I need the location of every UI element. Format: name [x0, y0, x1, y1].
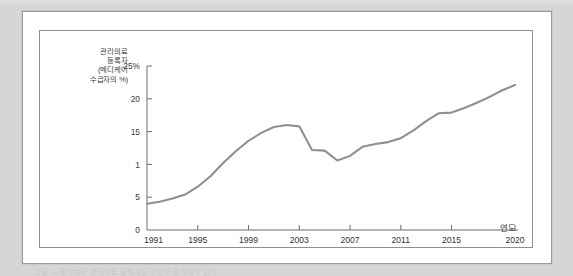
y-tick-label: 20 [131, 94, 141, 104]
y-tick-label: 5 [135, 192, 140, 202]
x-tick-label: 1995 [188, 235, 207, 245]
x-tick-label: 2020 [505, 235, 524, 245]
x-tick-label: 2003 [290, 235, 309, 245]
x-tick-label: 2007 [340, 235, 359, 245]
figure-plate: 관리의료 등록자 (메디케어 수급자의 %) 051152025% 199119… [39, 30, 533, 248]
y-tick-label: 1 [135, 160, 140, 170]
x-axis-title: 연도 [500, 221, 516, 233]
y-tick-label: 15 [131, 127, 141, 137]
figure-frame: 관리의료 등록자 (메디케어 수급자의 %) 051152025% 199119… [22, 11, 552, 264]
scan-caption: 그림 — 메디케어 관리의료 등록자는 꾸준히 증가하고 있다 [34, 267, 534, 276]
x-axis-ticks: 19911995199920032007201120152020 [144, 225, 525, 245]
y-tick-label: 25% [123, 61, 140, 71]
y-tick-label: 0 [135, 225, 140, 235]
x-tick-label: 2011 [392, 235, 411, 245]
x-tick-label: 2015 [442, 235, 461, 245]
data-series-line [147, 85, 515, 204]
x-tick-label: 1991 [144, 235, 163, 245]
x-tick-label: 1999 [239, 235, 258, 245]
line-chart: 051152025% 19911995199920032007201120152… [40, 31, 532, 247]
y-axis-ticks: 051152025% [123, 61, 152, 235]
screenshot-page: 관리의료 등록자 (메디케어 수급자의 %) 051152025% 199119… [0, 0, 573, 276]
chart-svg: 051152025% 19911995199920032007201120152… [40, 31, 532, 247]
